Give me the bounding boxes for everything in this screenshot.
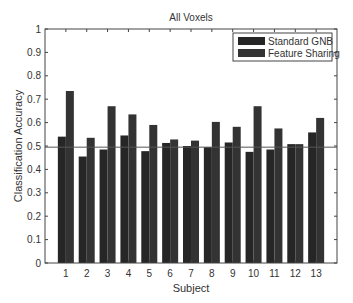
- x-tick-label: 4: [126, 268, 132, 279]
- bar-gnb-7: [183, 146, 191, 263]
- bar-gnb-6: [162, 143, 170, 263]
- x-tick-label: 12: [290, 268, 302, 279]
- y-tick-label: 0.9: [27, 47, 41, 58]
- x-tick-label: 6: [167, 268, 173, 279]
- x-tick-label: 10: [248, 268, 260, 279]
- bar-feature-sharing-1: [66, 91, 74, 263]
- bar-feature-sharing-10: [254, 106, 262, 263]
- bar-feature-sharing-8: [212, 122, 220, 263]
- bar-feature-sharing-11: [274, 128, 282, 263]
- x-tick-label: 13: [311, 268, 323, 279]
- x-tick-label: 7: [188, 268, 194, 279]
- bar-gnb-5: [141, 151, 149, 263]
- legend-swatch-feature-sharing: [238, 49, 265, 57]
- y-tick-label: 0.8: [27, 70, 41, 81]
- bars: [58, 91, 324, 263]
- y-tick-label: 1: [35, 24, 41, 35]
- bar-gnb-3: [100, 150, 108, 263]
- bar-gnb-8: [204, 147, 212, 263]
- y-tick-label: 0.2: [27, 211, 41, 222]
- bar-chart: All Voxels 00.10.20.30.40.50.60.70.80.91…: [0, 0, 353, 303]
- bar-feature-sharing-5: [149, 125, 157, 263]
- bar-gnb-1: [58, 137, 66, 263]
- bar-feature-sharing-12: [295, 144, 303, 263]
- bar-feature-sharing-13: [316, 118, 324, 263]
- chart-title: All Voxels: [169, 12, 212, 23]
- bar-gnb-12: [287, 144, 295, 263]
- x-tick-label: 9: [230, 268, 236, 279]
- bar-feature-sharing-6: [170, 139, 178, 263]
- legend-label-gnb: Standard GNB: [268, 36, 333, 47]
- y-tick-label: 0.7: [27, 94, 41, 105]
- bar-feature-sharing-2: [87, 138, 95, 263]
- x-tick-label: 1: [63, 268, 69, 279]
- bar-gnb-10: [246, 152, 254, 263]
- x-tick-label: 8: [209, 268, 215, 279]
- y-tick-label: 0.6: [27, 117, 41, 128]
- x-tick-label: 2: [84, 268, 90, 279]
- x-tick-label: 5: [147, 268, 153, 279]
- bar-feature-sharing-3: [108, 106, 116, 263]
- legend: Standard GNB Feature Sharing: [233, 33, 340, 61]
- bar-gnb-2: [79, 157, 87, 263]
- bar-feature-sharing-7: [191, 141, 199, 263]
- x-axis-label: Subject: [173, 282, 210, 294]
- bar-gnb-13: [308, 132, 316, 263]
- bar-feature-sharing-4: [128, 114, 136, 263]
- y-tick-label: 0.4: [27, 164, 41, 175]
- bar-gnb-11: [266, 150, 274, 263]
- y-tick-label: 0.3: [27, 187, 41, 198]
- bar-gnb-9: [225, 142, 233, 263]
- x-tick-label: 11: [269, 268, 280, 279]
- x-tick-label: 3: [105, 268, 111, 279]
- legend-label-feature-sharing: Feature Sharing: [268, 48, 340, 59]
- y-tick-label: 0: [35, 258, 41, 269]
- y-tick-label: 0.1: [27, 234, 41, 245]
- bar-gnb-4: [120, 135, 128, 263]
- y-tick-label: 0.5: [27, 141, 41, 152]
- legend-swatch-gnb: [238, 37, 265, 45]
- y-axis-label: Classification Accuracy: [12, 89, 24, 202]
